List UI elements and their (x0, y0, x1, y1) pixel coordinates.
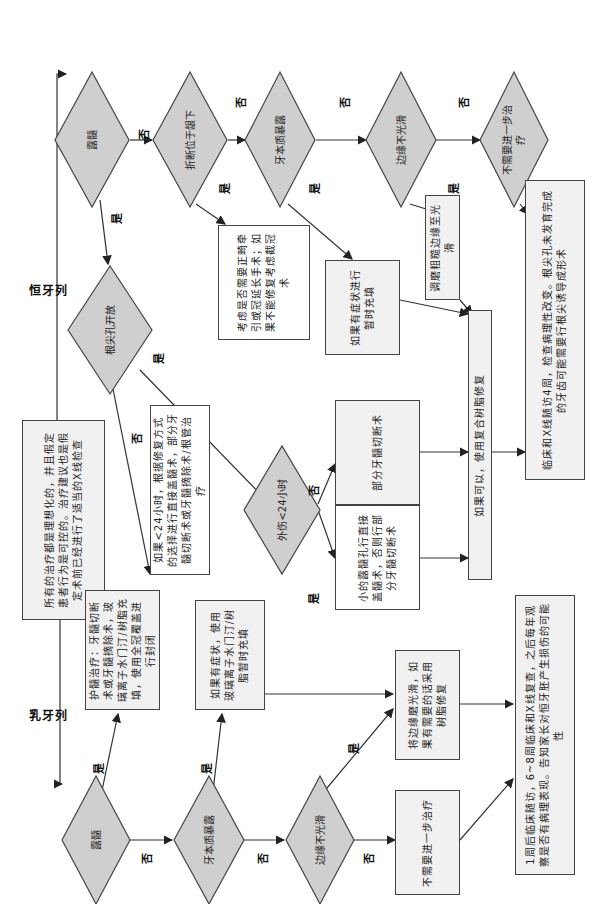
box-followup-primary: 1周后临床随访，6~8周临床和X线复查，之后每年观察是否有病理表现。告知家长对恒… (515, 595, 575, 875)
box-pulp-therapy-primary: 护髓治疗：牙髓切断术或牙髓摘除术，玻璃离子水门汀/树脂充填，使用全冠覆盖进行封闭 (85, 590, 160, 710)
decision-label: 边缘不光滑 (286, 776, 354, 904)
label-yes: 是 (445, 183, 461, 194)
box-smooth-edge-primary: 将边缘磨光滑，如果有需要的话采用树脂修复 (395, 650, 460, 760)
primary-dentition-title: 乳牙列 (29, 706, 68, 723)
permanent-dentition-title: 恒牙列 (29, 281, 68, 298)
label-yes: 是 (216, 183, 232, 194)
decision-rough-edge-primary: 边缘不光滑 (286, 776, 354, 904)
decision-label: 露髓 (62, 776, 130, 904)
label-no: 否 (455, 97, 471, 108)
box-composite-resin: 如果可以，使用复合树脂修复 (468, 310, 492, 580)
label-yes: 是 (90, 763, 106, 774)
decision-trauma-24h: 外伤<24小时 (244, 446, 320, 574)
decision-label: 根尖孔开放 (68, 266, 152, 394)
label-no: 否 (232, 97, 248, 108)
label-no: 否 (135, 129, 151, 140)
label-yes: 是 (345, 743, 361, 754)
decision-pulp-exposure-permanent: 露髓 (55, 72, 129, 207)
decision-label: 牙本质暴露 (245, 72, 315, 207)
label-yes: 是 (305, 593, 321, 604)
decision-dentin-exposure-permanent: 牙本质暴露 (245, 72, 315, 207)
flowchart-canvas: 恒牙列 乳牙列 所有的治疗都是理想化的，并且假定患者行为是可控的。治疗建议也是假… (0, 0, 609, 904)
decision-pulp-exposure-primary: 露髓 (62, 776, 130, 904)
box-followup-4-weeks: 临床和X线随访4周，检查病理性改变。根尖孔未发育完成的牙齿可能需要行根尖诱导成形… (525, 180, 585, 480)
decision-label: 牙本质暴露 (174, 776, 244, 904)
decision-rough-edge-permanent: 边缘不光滑 (366, 72, 436, 207)
decision-label: 边缘不光滑 (366, 72, 436, 207)
box-temporary-filling-primary: 如果有症状，使用玻璃离子水门汀/树脂暂时充填 (195, 600, 265, 710)
label-no: 否 (360, 853, 376, 864)
label-no: 否 (336, 97, 352, 108)
box-temporary-filling-permanent: 如果有症状进行暂时充填 (325, 260, 400, 355)
decision-label: 外伤<24小时 (244, 446, 320, 574)
label-no: 否 (305, 485, 321, 496)
box-partial-pulpotomy: 部分牙髓切断术 (335, 400, 420, 505)
box-closed-apex-treatment: 如果<24小时，根据修复方式的选择进行直接盖髓术，部分牙髓切断术或牙髓摘除术/根… (150, 405, 210, 575)
label-no: 否 (254, 853, 270, 864)
decision-apex-open: 根尖孔开放 (68, 266, 152, 394)
label-yes: 是 (108, 213, 124, 224)
label-yes: 是 (198, 763, 214, 774)
label-no: 否 (128, 433, 144, 444)
decision-dentin-exposure-primary: 牙本质暴露 (174, 776, 244, 904)
label-yes: 是 (150, 353, 166, 364)
box-orthodontic-extrusion: 考虑是否需要正畸牵引或冠延长手术；如果不能修复考虑截冠术 (218, 225, 310, 340)
decision-label: 露髓 (55, 72, 129, 207)
label-yes: 是 (306, 183, 322, 194)
label-no: 否 (138, 853, 154, 864)
box-direct-pulp-capping: 小的露髓孔行直接盖髓术，否则行部分牙髓切断术 (335, 505, 420, 610)
box-smooth-rough-edge: 调磨粗糙边缘至光滑 (425, 195, 460, 300)
box-no-treatment-primary: 不需要进一步治疗 (395, 790, 460, 895)
